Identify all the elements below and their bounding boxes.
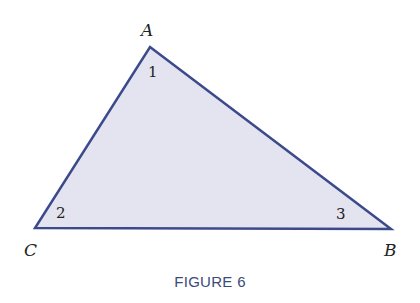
- vertex-label-b: B: [383, 240, 397, 260]
- angle-label-2: 2: [56, 204, 66, 222]
- triangle-diagram: A B C 1 2 3: [0, 0, 420, 303]
- triangle-abc: [35, 47, 391, 229]
- vertex-label-a: A: [139, 20, 153, 40]
- figure-caption: FIGURE 6: [0, 273, 420, 290]
- angle-label-3: 3: [336, 205, 346, 223]
- vertex-label-c: C: [24, 240, 37, 260]
- angle-label-1: 1: [148, 63, 158, 81]
